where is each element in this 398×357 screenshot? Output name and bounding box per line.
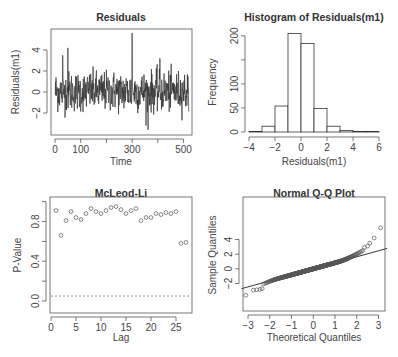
y-tick-label: 50 (229, 102, 240, 114)
x-tick-label: 0 (298, 142, 304, 153)
pvalue-point (129, 209, 133, 213)
pvalue-point (139, 219, 143, 223)
x-tick-label: 5 (73, 322, 79, 333)
pvalue-point (99, 212, 103, 216)
x-tick-label: 0 (48, 322, 54, 333)
y-tick-label: 4 (223, 236, 234, 242)
pvalue-point (174, 210, 178, 214)
y-tick-label: −2 (31, 107, 42, 119)
y-tick-label: 0 (223, 266, 234, 272)
x-tick-label: 4 (350, 142, 356, 153)
panel-mcleod-li: McLeod-Li 05101520250.00.40.8 Lag P-Valu… (12, 187, 192, 343)
axes: −3−2−10123−2024 (223, 236, 382, 331)
pvalue-points (51, 205, 191, 296)
panel-residuals-timeseries: Residuals 0100300500−2024 Time Residuals… (10, 11, 192, 167)
x-tick-label: 10 (95, 322, 107, 333)
x-tick-label: 0 (52, 144, 58, 155)
pvalue-point (169, 212, 173, 216)
histogram-bar (340, 131, 353, 132)
pvalue-point (69, 210, 73, 214)
y-tick-label: −2 (223, 277, 234, 289)
x-tick-label: −3 (242, 320, 254, 331)
x-tick-label: 2 (324, 142, 330, 153)
pvalue-point (89, 207, 93, 211)
qq-point (244, 293, 248, 297)
y-tick-label: 0.8 (30, 214, 41, 228)
x-tick-label: 25 (170, 322, 182, 333)
x-tick-label: 500 (175, 144, 192, 155)
y-tick-label: 100 (229, 75, 240, 92)
x-axis-label: Lag (113, 332, 130, 343)
pvalue-point (59, 234, 63, 238)
y-tick-label: 0 (31, 89, 42, 95)
histogram-bar (275, 106, 288, 132)
histogram-bar (314, 108, 327, 132)
x-tick-label: 6 (376, 142, 382, 153)
y-tick-label: 0.0 (30, 294, 41, 308)
x-axis-label: Theoretical Quantiles (267, 332, 362, 343)
x-tick-label: 1 (332, 320, 338, 331)
pvalue-point (114, 205, 118, 209)
qq-point (260, 287, 264, 291)
x-tick-label: −1 (286, 320, 298, 331)
x-tick-label: −4 (243, 142, 255, 153)
panel-title: Residuals (96, 11, 146, 23)
pvalue-point (179, 241, 183, 245)
x-tick-label: 0 (310, 320, 316, 331)
y-tick-label: 0 (229, 129, 240, 135)
plot-frame (243, 197, 385, 311)
panel-histogram: Histogram of Residuals(m1) −4−2024605010… (207, 11, 384, 167)
y-tick-label: 2 (31, 68, 42, 74)
y-axis-label: Residuals(m1) (10, 50, 21, 114)
qq-point (368, 241, 372, 245)
pvalue-point (79, 218, 83, 222)
pvalue-point (124, 212, 128, 216)
qq-points (241, 226, 387, 297)
pvalue-point (104, 209, 108, 213)
pvalue-point (64, 219, 68, 223)
pvalue-point (84, 212, 88, 216)
y-axis-label: P-Value (12, 237, 23, 272)
pvalue-point (144, 216, 148, 220)
pvalue-point (154, 212, 158, 216)
x-tick-label: 3 (376, 320, 382, 331)
y-tick-label: 2 (223, 251, 234, 257)
pvalue-point (184, 240, 188, 244)
pvalue-point (134, 207, 138, 211)
qq-point (379, 226, 383, 230)
x-axis-label: Residuals(m1) (282, 156, 346, 167)
y-tick-label: 0.4 (30, 254, 41, 268)
pvalue-point (94, 210, 98, 214)
diagnostic-plots: Residuals 0100300500−2024 Time Residuals… (0, 0, 398, 357)
residuals-line (55, 33, 188, 130)
y-tick-label: 4 (31, 47, 42, 53)
histogram-bar (288, 33, 301, 132)
panel-qq-plot: Normal Q-Q Plot −3−2−10123−2024 Theoreti… (207, 187, 387, 343)
pvalue-point (164, 211, 168, 215)
pvalue-point (159, 213, 163, 217)
pvalue-point (74, 216, 78, 220)
histogram-bar (301, 44, 314, 132)
qq-point (372, 236, 376, 240)
x-tick-label: −2 (269, 142, 281, 153)
y-tick-label: 200 (229, 27, 240, 44)
x-tick-label: −2 (264, 320, 276, 331)
histogram-bar (327, 126, 340, 132)
histogram-bar (262, 126, 275, 132)
y-axis-label: Sample Quantiles (207, 216, 218, 295)
pvalue-point (109, 206, 113, 210)
x-axis-label: Time (110, 156, 132, 167)
pvalue-point (119, 208, 123, 212)
panel-title: Histogram of Residuals(m1) (244, 11, 383, 23)
diagnostic-figure: Residuals 0100300500−2024 Time Residuals… (0, 0, 398, 357)
x-tick-label: 2 (354, 320, 360, 331)
y-axis-label: Frequency (207, 58, 218, 105)
pvalue-point (54, 209, 58, 213)
pvalue-point (149, 216, 153, 220)
x-tick-label: 20 (145, 322, 157, 333)
x-tick-label: 300 (124, 144, 141, 155)
histogram-bars (249, 33, 379, 132)
x-tick-label: 100 (72, 144, 89, 155)
